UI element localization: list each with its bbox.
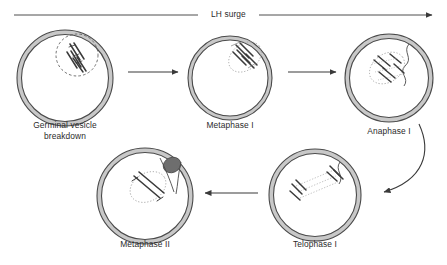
- stage-label-telophase-1: Telophase I: [265, 239, 365, 250]
- stage-label-germinal-vesicle-breakdown: Germinal vesicle breakdown: [5, 120, 125, 141]
- meiosis-diagram: LH surge Germinal vesicle breakdown Meta…: [0, 0, 447, 265]
- stage-label-anaphase-1: Anaphase I: [339, 126, 439, 137]
- cell-telophase-1: [269, 149, 361, 241]
- stage-label-metaphase-1: Metaphase I: [180, 120, 280, 131]
- cell-germinal-vesicle-breakdown: [17, 30, 113, 126]
- cell-anaphase-1: [345, 34, 433, 122]
- stage-label-metaphase-2: Metaphase II: [95, 239, 195, 250]
- lh-surge-label: LH surge: [198, 9, 259, 19]
- cell-metaphase-2: [97, 148, 193, 244]
- cell-metaphase-1: [188, 36, 272, 120]
